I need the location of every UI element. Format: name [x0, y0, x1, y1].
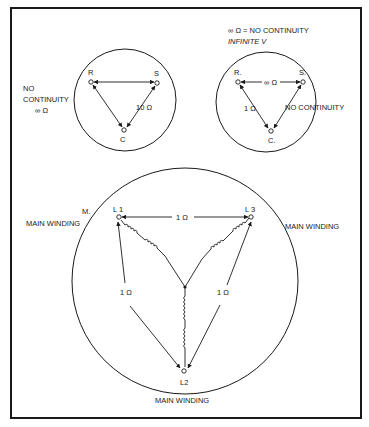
node-label-r: R. [234, 68, 242, 77]
node-label-s: S. [299, 68, 306, 77]
node-label-l3: L 3 [245, 205, 255, 214]
label-l1-l3-resistance: 1 Ω [176, 213, 188, 222]
terminal-c [122, 128, 126, 132]
label-sc-resistance: 10 Ω [136, 103, 152, 112]
node-label-s: S [154, 69, 159, 78]
winding-l2 [184, 287, 186, 367]
label-rc-resistance: 1 Ω [244, 104, 256, 113]
terminal-r [89, 80, 93, 84]
header-line2: INFINITE V [228, 37, 267, 46]
node-label-c: C [120, 135, 126, 144]
label-rs-resistance: ∞ Ω [264, 78, 277, 87]
node-label-l2: L2 [180, 378, 188, 387]
bottom-circuit: 1 Ω 1 Ω 1 Ω L 1 L 3 L2 M. MAIN WINDING M… [26, 168, 339, 405]
terminal-c [269, 129, 273, 133]
top-left-circuit: R S C 10 Ω NO CONTINUITY ∞ Ω [23, 49, 176, 151]
label-sc-resistance: NO CONTINUITY [285, 103, 344, 112]
terminal-r [236, 80, 240, 84]
label-main-winding-bottom: MAIN WINDING [155, 396, 209, 405]
terminal-s [301, 80, 305, 84]
top-right-circle [216, 52, 316, 152]
label-main-winding-right: MAIN WINDING [285, 222, 339, 231]
label-l3-l2-resistance: 1 Ω [217, 288, 229, 297]
side-note-line1: NO [23, 84, 34, 93]
label-main-winding-left: MAIN WINDING [26, 219, 80, 228]
terminal-l2 [182, 369, 186, 373]
label-m: M. [82, 207, 90, 216]
side-note-line2: CONTINUITY [23, 95, 69, 104]
node-label-c: C. [268, 136, 276, 145]
top-right-circuit: R. S. C. ∞ Ω 1 Ω NO CONTINUITY ∞ Ω = NO … [216, 26, 344, 152]
node-label-r: R [88, 68, 94, 77]
winding-l1 [121, 220, 185, 287]
terminal-l3 [249, 215, 253, 219]
side-note-line3: ∞ Ω [35, 106, 48, 115]
label-l1-l2-resistance: 1 Ω [120, 288, 132, 297]
terminal-l1 [117, 215, 121, 219]
motor-winding-diagram: R S C 10 Ω NO CONTINUITY ∞ Ω R. S. C. ∞ … [0, 0, 369, 427]
terminal-s [155, 81, 159, 85]
star-point [183, 285, 186, 288]
header-line1: ∞ Ω = NO CONTINUITY [228, 26, 309, 35]
node-label-l1: L 1 [113, 205, 123, 214]
